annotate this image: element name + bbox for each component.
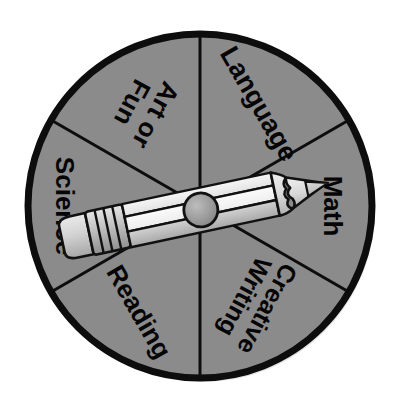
spinner-wheel-svg: LanguageMathCreativeWritingReadingScienc… xyxy=(0,0,395,412)
spinner-wheel-image: LanguageMathCreativeWritingReadingScienc… xyxy=(0,0,395,412)
